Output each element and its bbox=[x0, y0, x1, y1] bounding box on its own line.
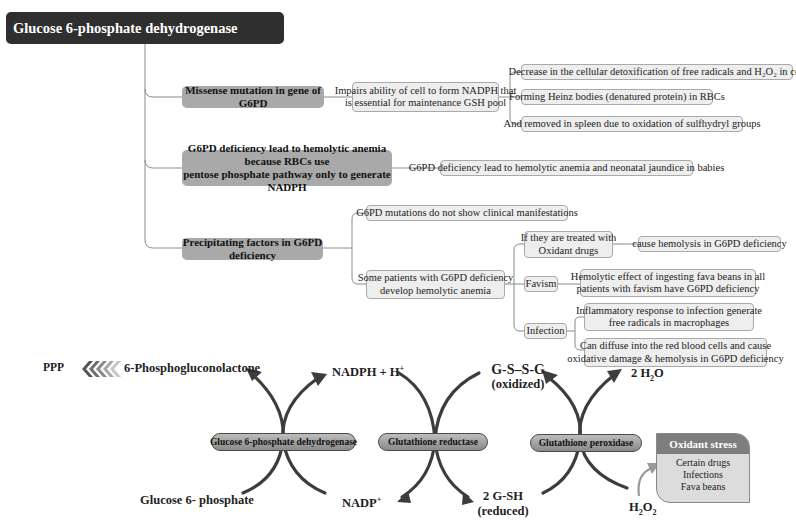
infection-effect-2-line2: oxidative damage & hemolysis in G6PD def… bbox=[567, 353, 783, 366]
infection-effect-free-radicals: Inflammatory response to infection gener… bbox=[584, 303, 754, 331]
effect-detoxification: Decrease in the cellular detoxification … bbox=[521, 64, 793, 80]
gssg-text: G-S–S-G bbox=[482, 362, 554, 377]
oxidant-stress-box: Oxidant stress Certain drugs Infections … bbox=[656, 433, 750, 503]
favism-effect: Hemolytic effect of ingesting fava beans… bbox=[580, 269, 756, 297]
oxidant-drugs-effect: cause hemolysis in G6PD deficiency bbox=[638, 236, 781, 252]
gsh-state: (reduced) bbox=[470, 504, 536, 519]
infection-effect-1-line1: Inflammatory response to infection gener… bbox=[576, 305, 762, 318]
metabolite-h2o2: H2O2 bbox=[629, 500, 656, 517]
effect-heinz-bodies: Forming Heinz bodies (denatured protein)… bbox=[521, 89, 713, 105]
some-patients-line1: Some patients with G6PD deficiency bbox=[358, 272, 514, 285]
water-tail: O bbox=[654, 366, 664, 380]
some-patients-line2: develop hemolytic anemia bbox=[380, 285, 491, 298]
nadph-sup: + bbox=[400, 364, 405, 373]
branch-missense-child-line2: is essential for maintenance GSH pool bbox=[345, 97, 506, 110]
infection-effect-oxidative-damage: Can diffuse into the red blood cells and… bbox=[584, 338, 767, 367]
ppp-chevron-arrows-icon bbox=[81, 361, 121, 377]
effect-spleen-removal: And removed in spleen due to oxidation o… bbox=[521, 116, 743, 132]
water-text: 2 H bbox=[631, 366, 650, 380]
infection-effect-2-line1: Can diffuse into the red blood cells and… bbox=[580, 340, 771, 353]
h2o2-o: O bbox=[643, 500, 653, 514]
no-clinical-manifestations: G6PD mutations do not show clinical mani… bbox=[366, 205, 568, 221]
branch-missense-child-line1: Impairs ability of cell to form NADPH th… bbox=[335, 85, 517, 98]
hemolytic-anemia-child: G6PD deficiency lead to hemolytic anemia… bbox=[440, 160, 693, 176]
trigger-oxidant-drugs-line1: If they are treated with bbox=[521, 232, 617, 245]
branch-missense-child: Impairs ability of cell to form NADPH th… bbox=[352, 82, 499, 112]
oxidant-stress-item: Infections bbox=[657, 469, 749, 481]
branch-missense-mutation: Missense mutation in gene of G6PD bbox=[182, 86, 324, 108]
oxidant-stress-title: Oxidant stress bbox=[657, 434, 749, 454]
branch-precipitating-factors: Precipitating factors in G6PD deficiency bbox=[182, 238, 323, 260]
nadph-text: NADPH + H bbox=[332, 365, 400, 379]
favism-effect-line1: Hemolytic effect of ingesting fava beans… bbox=[571, 271, 765, 284]
branch-hemolytic-anemia-line2: pentose phosphate pathway only to genera… bbox=[182, 168, 392, 194]
metabolite-gsh: 2 G-SH (reduced) bbox=[470, 489, 536, 519]
metabolite-6-phosphogluconolactone: 6-Phosphogluconolactone bbox=[124, 361, 260, 376]
trigger-oxidant-drugs: If they are treated with Oxidant drugs bbox=[524, 231, 613, 258]
gssg-state: (oxidized) bbox=[482, 377, 554, 392]
metabolite-water: 2 H2O bbox=[631, 366, 664, 383]
trigger-oxidant-drugs-line2: Oxidant drugs bbox=[539, 245, 599, 258]
enzyme-g6pd: Glucose 6-phosphate dehydrogenase bbox=[211, 433, 356, 451]
oxidant-stress-item: Fava beans bbox=[657, 481, 749, 493]
enzyme-glutathione-reductase: Glutathione reductase bbox=[378, 433, 488, 451]
mindmap-root: Glucose 6-phosphate dehydrogenase defici… bbox=[6, 12, 284, 44]
h2o2-h: H bbox=[629, 500, 639, 514]
enzyme-glutathione-peroxidase: Glutathione peroxidase bbox=[530, 434, 642, 452]
metabolite-gssg: G-S–S-G (oxidized) bbox=[482, 362, 554, 392]
infection-effect-1-line2: free radicals in macrophages bbox=[609, 317, 729, 330]
branch-hemolytic-anemia-line1: G6PD deficiency lead to hemolytic anemia… bbox=[182, 142, 392, 168]
gsh-text: 2 G-SH bbox=[470, 489, 536, 504]
some-patients-hemolytic: Some patients with G6PD deficiency devel… bbox=[366, 270, 505, 299]
trigger-favism: Favism bbox=[524, 276, 558, 292]
branch-hemolytic-anemia: G6PD deficiency lead to hemolytic anemia… bbox=[182, 150, 392, 186]
oxidant-stress-list: Certain drugs Infections Fava beans bbox=[657, 454, 749, 493]
ppp-label: PPP bbox=[43, 361, 64, 373]
favism-effect-line2: patients with favism have G6PD deficienc… bbox=[577, 283, 760, 296]
metabolite-nadph: NADPH + H+ bbox=[332, 364, 404, 380]
metabolite-nadp: NADP+ bbox=[342, 495, 381, 511]
nadp-sup: + bbox=[377, 495, 382, 504]
oxidant-stress-item: Certain drugs bbox=[657, 457, 749, 469]
nadp-text: NADP bbox=[342, 496, 377, 510]
h2o2-sub2: 2 bbox=[652, 508, 656, 517]
trigger-infection: Infection bbox=[524, 323, 567, 339]
metabolite-glucose-6-phosphate: Glucose 6- phosphate bbox=[140, 493, 254, 508]
